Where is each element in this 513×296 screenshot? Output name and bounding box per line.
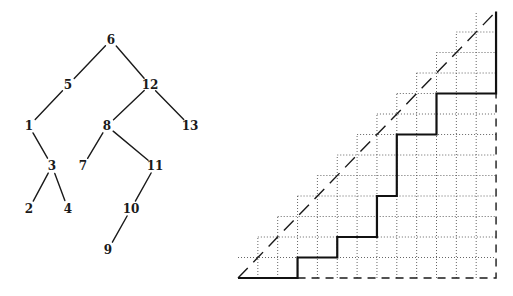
tree-node-12: 12 — [142, 78, 159, 92]
diagram-canvas: 65121813371124109 — [0, 0, 513, 296]
tree-nodes: 65121813371124109 — [25, 33, 199, 257]
tree-node-7: 7 — [79, 159, 87, 173]
tree-edge-3-2 — [33, 173, 48, 201]
tree-node-13: 13 — [182, 119, 199, 133]
tree-node-4: 4 — [64, 202, 72, 216]
tree-edge-5-1 — [35, 91, 62, 120]
tree-node-1: 1 — [25, 119, 33, 133]
tree-edge-8-11 — [113, 131, 148, 160]
tree-node-2: 2 — [25, 202, 33, 216]
tree-node-6: 6 — [107, 33, 115, 47]
tree-node-8: 8 — [103, 119, 111, 133]
tree-node-3: 3 — [48, 159, 56, 173]
tree-edge-1-3 — [33, 133, 48, 158]
tree-edge-12-8 — [114, 91, 145, 120]
tree-node-5: 5 — [64, 78, 72, 92]
tree-edge-10-9 — [112, 216, 127, 242]
tree-edges — [33, 46, 184, 242]
tree-node-11: 11 — [147, 159, 164, 173]
tree-edge-11-10 — [135, 173, 151, 201]
tree-edge-8-7 — [88, 133, 103, 158]
tree-node-10: 10 — [123, 202, 140, 216]
binary-search-tree: 65121813371124109 — [25, 33, 199, 257]
tree-edge-3-4 — [55, 173, 65, 200]
tree-edge-12-13 — [156, 91, 184, 120]
tree-edge-6-12 — [116, 46, 144, 78]
tree-edge-6-5 — [74, 46, 105, 79]
lattice-path-diagram — [238, 12, 496, 279]
tree-node-9: 9 — [104, 243, 112, 257]
